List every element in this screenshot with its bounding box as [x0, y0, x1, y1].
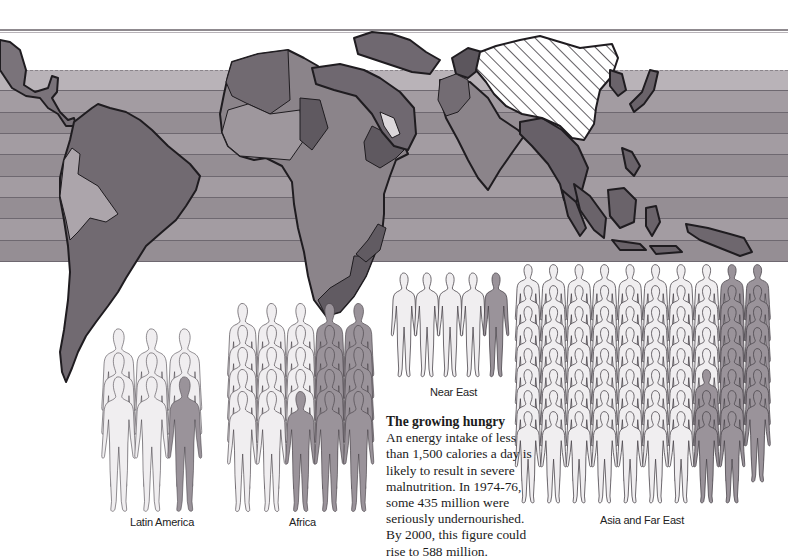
caption-line: likely to result in severe — [386, 463, 536, 479]
pictogram-africa — [226, 300, 376, 515]
java — [612, 240, 646, 250]
person-icon — [437, 273, 462, 377]
label-africa: Africa — [289, 516, 316, 528]
figure-grid — [514, 262, 784, 512]
figure-grid — [390, 270, 515, 385]
philippines — [622, 148, 640, 176]
label-near-east: Near East — [430, 386, 477, 398]
pictogram-latin-america — [100, 325, 210, 515]
caption-line: some 435 million were — [386, 495, 536, 511]
caption-line: than 1,500 calories a day is — [386, 446, 536, 462]
caption-line: An energy intake of less — [386, 430, 536, 446]
borneo — [608, 188, 636, 228]
near-east-north — [354, 32, 440, 74]
caption-line: malnutrition. In 1974-76, — [386, 479, 536, 495]
person-icon — [414, 273, 439, 377]
figure-grid — [226, 300, 376, 515]
mexico-central-america — [0, 40, 76, 126]
label-latin-america: Latin America — [130, 516, 194, 528]
person-icon — [391, 273, 416, 377]
korea — [610, 70, 626, 96]
sulawesi — [646, 206, 660, 236]
figure-grid — [100, 325, 210, 515]
person-icon — [460, 273, 485, 377]
caption: The growing hungry An energy intake of l… — [386, 414, 536, 560]
caption-title: The growing hungry — [386, 414, 536, 430]
caption-line: rise to 588 million. — [386, 544, 536, 560]
japan — [630, 70, 658, 112]
africa-west-mid — [222, 104, 304, 160]
label-asia-far-east: Asia and Far East — [600, 514, 684, 526]
pictogram-near-east — [390, 270, 515, 385]
caption-line: By 2000, this figure could — [386, 527, 536, 543]
new-guinea — [686, 224, 752, 256]
caption-line: seriously undernourished. — [386, 511, 536, 527]
lesser-sunda — [650, 246, 682, 254]
pictogram-asia-far-east — [514, 262, 784, 512]
person-icon-undernourished — [483, 273, 508, 377]
